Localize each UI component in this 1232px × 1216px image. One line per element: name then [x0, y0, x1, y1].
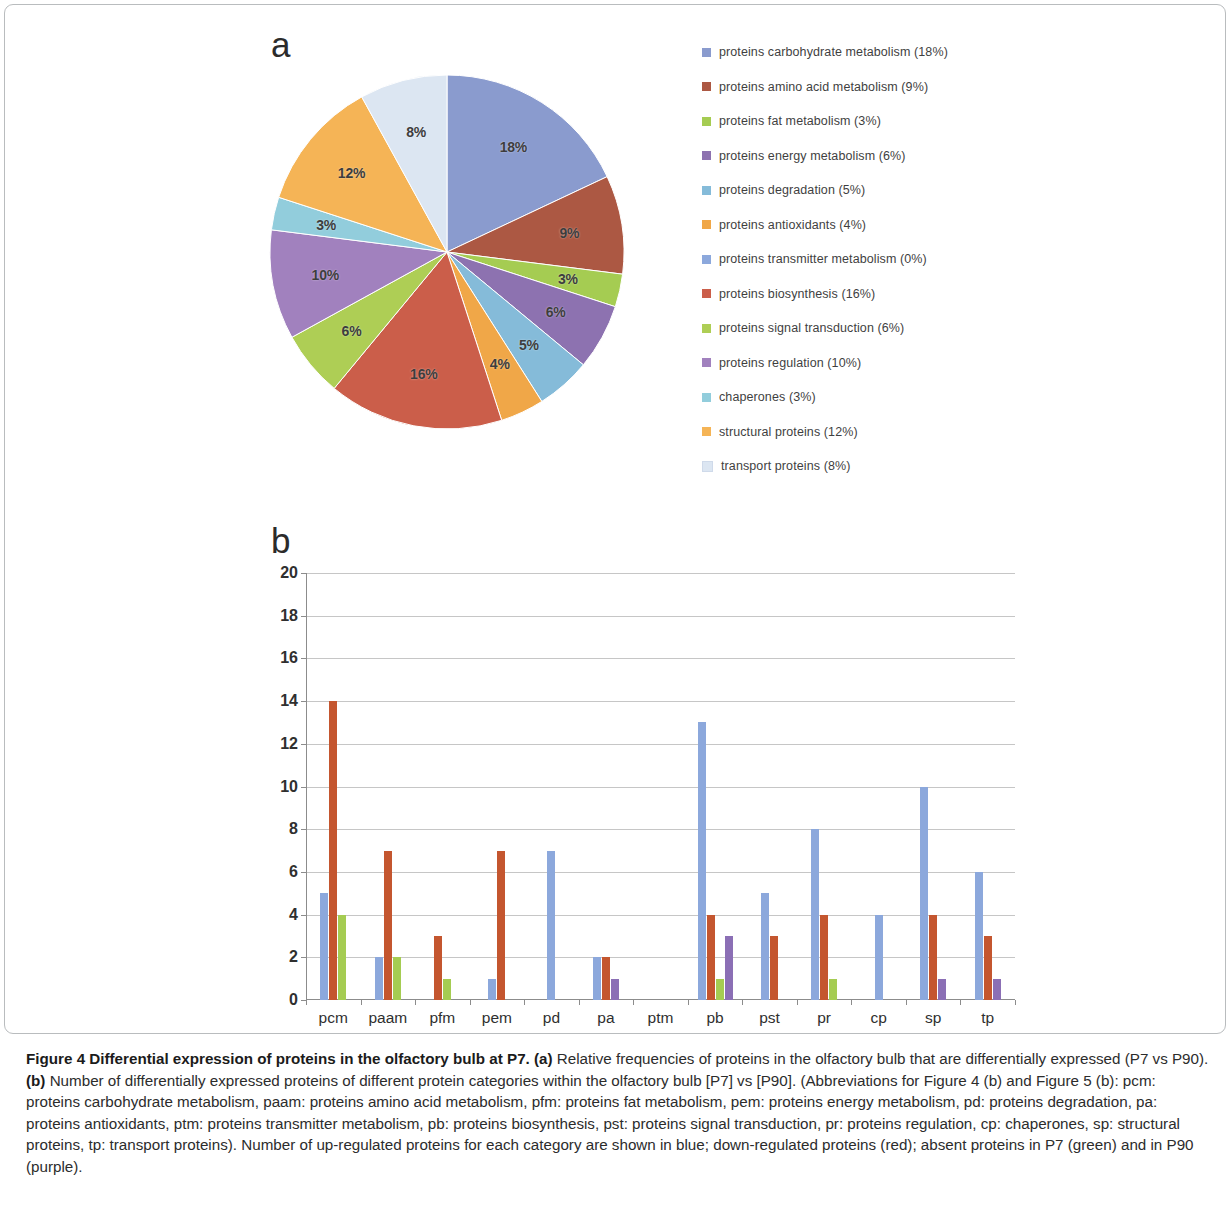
y-axis-tick-mark — [301, 829, 306, 830]
legend-item-label: transport proteins (8%) — [721, 459, 850, 473]
panel-b-letter: b — [271, 523, 290, 558]
legend-color-swatch — [702, 461, 713, 472]
y-axis-tick-mark — [301, 872, 306, 873]
bar-group — [906, 573, 961, 1000]
bar — [829, 979, 837, 1000]
legend-color-swatch — [702, 48, 711, 57]
bar — [698, 722, 706, 1000]
bar-group — [742, 573, 797, 1000]
x-axis-tick-mark — [906, 1000, 907, 1005]
x-axis-tick-label: sp — [925, 1009, 941, 1027]
x-axis-tick-label: cp — [870, 1009, 886, 1027]
y-axis-tick-label: 6 — [264, 863, 298, 881]
pie-slice-percentage-label: 10% — [312, 267, 339, 283]
legend-color-swatch — [702, 220, 711, 229]
bar — [716, 979, 724, 1000]
bar — [875, 915, 883, 1000]
pie-slice-percentage-label: 4% — [490, 356, 510, 372]
x-axis-tick-label: paam — [368, 1009, 407, 1027]
bar — [984, 936, 992, 1000]
y-axis-tick-label: 18 — [264, 607, 298, 625]
y-axis-tick-label: 4 — [264, 906, 298, 924]
y-axis-tick-label: 12 — [264, 735, 298, 753]
x-axis-tick-label: tp — [981, 1009, 994, 1027]
legend-color-swatch — [702, 117, 711, 126]
x-axis-tick-label: pr — [817, 1009, 831, 1027]
bar-group — [851, 573, 906, 1000]
bar — [375, 957, 383, 1000]
bar — [384, 851, 392, 1000]
legend-color-swatch — [702, 393, 711, 402]
caption-part-b-text: Number of differentially expressed prote… — [26, 1072, 1194, 1175]
bar — [707, 915, 715, 1000]
bar — [929, 915, 937, 1000]
x-axis-tick-label: pem — [482, 1009, 512, 1027]
bar — [393, 957, 401, 1000]
legend-color-swatch — [702, 427, 711, 436]
pie-slice-percentage-label: 3% — [558, 271, 578, 287]
legend-item: chaperones (3%) — [702, 380, 1032, 415]
bar-group — [470, 573, 525, 1000]
legend-color-swatch — [702, 255, 711, 264]
bar-group — [306, 573, 361, 1000]
bar — [497, 851, 505, 1000]
pie-slice-percentage-label: 3% — [316, 217, 336, 233]
bar-group — [415, 573, 470, 1000]
pie-legend: proteins carbohydrate metabolism (18%)pr… — [702, 35, 1032, 484]
pie-slice-percentage-label: 9% — [559, 225, 579, 241]
pie-slice-percentage-label: 5% — [519, 337, 539, 353]
x-axis-tick-label: pb — [706, 1009, 723, 1027]
x-axis-tick-mark — [361, 1000, 362, 1005]
legend-item-label: proteins antioxidants (4%) — [719, 218, 866, 232]
bar-chart-y-axis-labels: 02468101214161820 — [262, 573, 298, 1000]
pie-slice-percentage-label: 16% — [410, 366, 437, 382]
legend-color-swatch — [702, 289, 711, 298]
x-axis-tick-mark — [306, 1000, 307, 1005]
pie-slice-percentage-label: 18% — [500, 139, 527, 155]
legend-item: proteins energy metabolism (6%) — [702, 139, 1032, 174]
x-axis-tick-mark — [1015, 1000, 1016, 1005]
bar — [920, 787, 928, 1001]
y-axis-tick-label: 10 — [264, 778, 298, 796]
legend-color-swatch — [702, 151, 711, 160]
legend-item-label: structural proteins (12%) — [719, 425, 858, 439]
y-axis-tick-mark — [301, 658, 306, 659]
bar — [975, 872, 983, 1000]
legend-item: proteins amino acid metabolism (9%) — [702, 70, 1032, 105]
x-axis-tick-label: pfm — [429, 1009, 455, 1027]
legend-color-swatch — [702, 186, 711, 195]
pie-slice-percentage-label: 8% — [406, 124, 426, 140]
bar — [488, 979, 496, 1000]
bar — [329, 701, 337, 1000]
bar — [770, 936, 778, 1000]
legend-item: proteins fat metabolism (3%) — [702, 104, 1032, 139]
x-axis-tick-mark — [960, 1000, 961, 1005]
legend-item: structural proteins (12%) — [702, 415, 1032, 450]
legend-item: proteins transmitter metabolism (0%) — [702, 242, 1032, 277]
bar — [593, 957, 601, 1000]
x-axis-tick-label: ptm — [648, 1009, 674, 1027]
legend-item-label: proteins carbohydrate metabolism (18%) — [719, 45, 948, 59]
bar-group — [361, 573, 416, 1000]
legend-item-label: proteins biosynthesis (16%) — [719, 287, 875, 301]
panel-a-letter: a — [271, 27, 290, 62]
caption-figure-title: Figure 4 Differential expression of prot… — [26, 1050, 530, 1067]
figure-frame: a 18%9%3%6%5%4%16%6%10%3%12%8% proteins … — [4, 4, 1226, 1034]
bar — [725, 936, 733, 1000]
bar-group — [633, 573, 688, 1000]
pie-slice-percentage-label: 6% — [342, 323, 362, 339]
legend-item-label: proteins regulation (10%) — [719, 356, 861, 370]
legend-item-label: chaperones (3%) — [719, 390, 816, 404]
y-axis-tick-mark — [301, 957, 306, 958]
x-axis-tick-mark — [851, 1000, 852, 1005]
x-axis-tick-mark — [633, 1000, 634, 1005]
legend-color-swatch — [702, 358, 711, 367]
legend-color-swatch — [702, 324, 711, 333]
y-axis-tick-mark — [301, 787, 306, 788]
y-axis-tick-mark — [301, 616, 306, 617]
bar-group — [524, 573, 579, 1000]
bar-group — [960, 573, 1015, 1000]
x-axis-tick-label: pcm — [319, 1009, 348, 1027]
x-axis-tick-label: pa — [597, 1009, 614, 1027]
x-axis-tick-label: pst — [759, 1009, 780, 1027]
